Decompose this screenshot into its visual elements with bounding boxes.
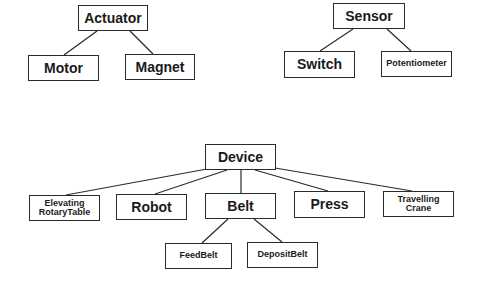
- edge-belt-feedbelt: [202, 219, 228, 243]
- node-travelling-crane: Travelling Crane: [383, 191, 454, 217]
- edge-device-elevating: [66, 169, 207, 195]
- edge-device-robot: [155, 170, 227, 194]
- node-belt: Belt: [205, 193, 276, 219]
- node-deposit-belt: DepositBelt: [247, 242, 318, 268]
- node-actuator: Actuator: [78, 5, 148, 31]
- edge-device-press: [255, 170, 328, 191]
- edge-actuator-motor: [64, 31, 97, 55]
- edge-device-crane: [275, 168, 412, 191]
- edge-sensor-potentiometer: [387, 29, 411, 51]
- node-elevating-rotary-table: Elevating RotaryTable: [29, 195, 100, 221]
- edge-belt-depositbelt: [254, 219, 282, 242]
- node-potentiometer: Potentiometer: [381, 51, 452, 77]
- node-robot: Robot: [116, 194, 187, 220]
- node-switch: Switch: [284, 51, 355, 78]
- node-motor: Motor: [28, 55, 99, 81]
- edge-sensor-switch: [320, 29, 353, 51]
- node-press: Press: [294, 191, 365, 218]
- node-device: Device: [205, 144, 276, 170]
- node-sensor: Sensor: [333, 3, 405, 29]
- edge-actuator-magnet: [130, 31, 153, 54]
- node-feed-belt: FeedBelt: [165, 243, 232, 269]
- node-magnet: Magnet: [125, 54, 195, 80]
